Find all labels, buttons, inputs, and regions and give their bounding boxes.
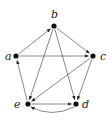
node-b [51, 23, 56, 28]
edge-e-to-a [17, 60, 27, 100]
edge-c-to-e [32, 58, 91, 101]
node-c [90, 53, 95, 58]
edge-b-to-e [29, 29, 52, 99]
node-a [13, 53, 18, 58]
node-e [25, 101, 30, 106]
edge-c-to-d [78, 59, 92, 99]
node-label-a: a [5, 50, 12, 63]
edge-b-to-c [57, 28, 90, 53]
labels-group: abcde [5, 8, 106, 111]
edge-d-to-e [31, 107, 74, 113]
node-label-b: b [51, 8, 58, 21]
node-label-d: d [82, 98, 89, 111]
graph-canvas: abcde [0, 0, 112, 119]
edges-group [17, 28, 92, 112]
node-label-c: c [100, 50, 106, 63]
node-label-e: e [14, 98, 21, 111]
node-d [73, 101, 78, 106]
